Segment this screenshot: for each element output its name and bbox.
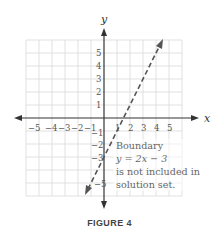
x-axis-left-arrow-icon xyxy=(14,115,22,121)
x-tick: −4 xyxy=(45,123,58,133)
x-tick: 3 xyxy=(141,123,146,133)
x-tick: −3 xyxy=(58,123,71,133)
graph-svg: x y −5 −4 −3 −2 −1 1 2 3 4 5 5 4 3 2 1 −… xyxy=(0,0,219,230)
y-tick: 5 xyxy=(96,48,101,58)
y-axis-up-arrow-icon xyxy=(101,28,107,36)
annotation-line-4: solution set. xyxy=(116,179,175,190)
y-tick: 3 xyxy=(96,74,101,84)
x-axis xyxy=(14,115,199,121)
x-axis-right-arrow-icon xyxy=(191,115,199,121)
x-tick: 2 xyxy=(128,123,133,133)
y-tick: −2 xyxy=(91,140,104,150)
y-tick: −1 xyxy=(91,128,104,138)
y-tick: 1 xyxy=(96,100,101,110)
annotation-equation: y = 2x − 3 xyxy=(115,153,167,164)
y-tick: −3 xyxy=(91,153,104,163)
boundary-line-top-arrow-icon xyxy=(156,39,163,49)
x-tick: −5 xyxy=(28,123,41,133)
y-axis-down-arrow-icon xyxy=(101,201,107,209)
y-tick: 4 xyxy=(96,61,101,71)
x-tick: −2 xyxy=(71,123,84,133)
annotation-line-1: Boundary xyxy=(116,140,164,151)
figure-caption: FIGURE 4 xyxy=(0,218,219,228)
y-tick: −5 xyxy=(94,179,107,189)
y-axis-label: y xyxy=(100,13,108,26)
x-axis-label: x xyxy=(204,112,211,125)
y-tick: 2 xyxy=(96,87,101,97)
coordinate-plane-figure: x y −5 −4 −3 −2 −1 1 2 3 4 5 5 4 3 2 1 −… xyxy=(0,0,219,230)
boundary-annotation: Boundary y = 2x − 3 is not included in s… xyxy=(113,139,200,191)
x-tick: 5 xyxy=(167,123,172,133)
x-tick: 4 xyxy=(154,123,159,133)
annotation-line-3: is not included in xyxy=(116,166,200,177)
